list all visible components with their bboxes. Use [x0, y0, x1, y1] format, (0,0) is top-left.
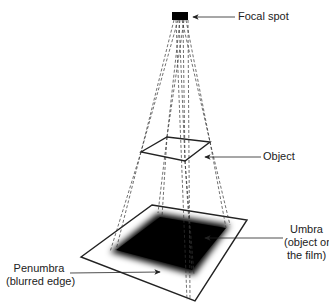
object-label: Object [263, 150, 295, 163]
focal-spot [172, 12, 188, 20]
umbra-label: Umbra (object on the film) [284, 223, 329, 262]
umbra-label-line2: (object on [284, 236, 329, 249]
penumbra-label-line1: Penumbra [6, 262, 72, 275]
umbra-label-line1: Umbra [284, 223, 329, 236]
object-square [141, 137, 210, 161]
penumbra-label: Penumbra (blurred edge) [6, 262, 72, 288]
umbra-label-line3: the film) [284, 249, 329, 262]
focal-spot-label: Focal spot [238, 10, 289, 23]
penumbra-label-line2: (blurred edge) [6, 275, 72, 288]
